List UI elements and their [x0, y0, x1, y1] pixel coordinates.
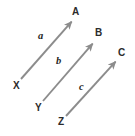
node-label-z: Z: [58, 117, 64, 127]
vector-label-c: c: [79, 82, 84, 93]
node-label-a: A: [72, 7, 79, 17]
vector-arrow-b: [43, 44, 93, 101]
node-label-x: X: [13, 81, 20, 91]
vector-label-b: b: [56, 56, 61, 67]
node-label-b: B: [95, 28, 102, 38]
vector-label-a: a: [38, 31, 43, 42]
vector-arrow-c: [66, 62, 116, 116]
vector-arrow-a: [21, 22, 72, 79]
diagram-canvas: A B C X Y Z a b c: [0, 0, 135, 136]
node-label-c: C: [118, 48, 125, 58]
node-label-y: Y: [35, 103, 42, 113]
vector-arrows-group: [0, 0, 135, 136]
